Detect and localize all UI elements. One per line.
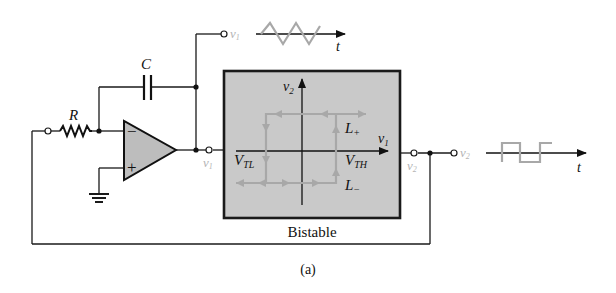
terminal-v1-top	[221, 31, 227, 37]
square-waveform	[486, 143, 586, 162]
triangle-t-label: t	[336, 39, 341, 54]
terminal-v2-box	[411, 150, 417, 156]
v2-box-label: v2	[407, 158, 417, 174]
terminal-input	[45, 128, 51, 134]
ground-icon	[89, 194, 109, 202]
bistable-block: v2 v1 L+ L− VTL VTH	[224, 71, 400, 218]
resistor-icon	[60, 126, 92, 136]
junction-dot	[427, 150, 432, 155]
capacitor-label: C	[141, 56, 152, 72]
triangle-waveform	[256, 23, 345, 44]
circuit-diagram: R C − + v1 v1 v2 v2 t t	[0, 0, 616, 293]
bistable-title: Bistable	[287, 224, 337, 240]
terminal-v1-out	[206, 147, 212, 153]
square-t-label: t	[577, 160, 582, 175]
terminal-v2-out	[451, 150, 457, 156]
v1-out-label: v1	[203, 155, 213, 171]
junction-dot	[193, 84, 198, 89]
opamp-inverting-sign: −	[127, 122, 137, 141]
junction-dot	[193, 147, 198, 152]
resistor-label: R	[68, 107, 78, 123]
v1-top-label: v1	[230, 26, 240, 42]
opamp-noninverting-sign: +	[127, 158, 137, 177]
v2-out-label: v2	[460, 145, 470, 161]
junction-dot	[96, 128, 101, 133]
figure-caption: (a)	[300, 262, 316, 278]
capacitor-icon	[144, 75, 151, 100]
